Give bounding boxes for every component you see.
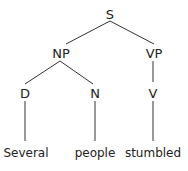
word-several: Several <box>3 146 48 160</box>
node-np: NP <box>52 46 70 61</box>
edge-s-np <box>66 21 110 44</box>
edge-s-vp <box>110 21 154 44</box>
edge-np-n <box>60 61 93 84</box>
edge-np-d <box>25 61 60 84</box>
node-s: S <box>106 7 114 22</box>
node-vp: VP <box>146 46 163 61</box>
word-stumbled: stumbled <box>125 146 181 160</box>
node-n: N <box>90 86 100 101</box>
node-d: D <box>20 86 30 101</box>
word-people: people <box>75 146 116 160</box>
syntax-tree: S NP VP D N V Several people stumbled <box>0 0 188 171</box>
node-v: V <box>149 86 158 101</box>
